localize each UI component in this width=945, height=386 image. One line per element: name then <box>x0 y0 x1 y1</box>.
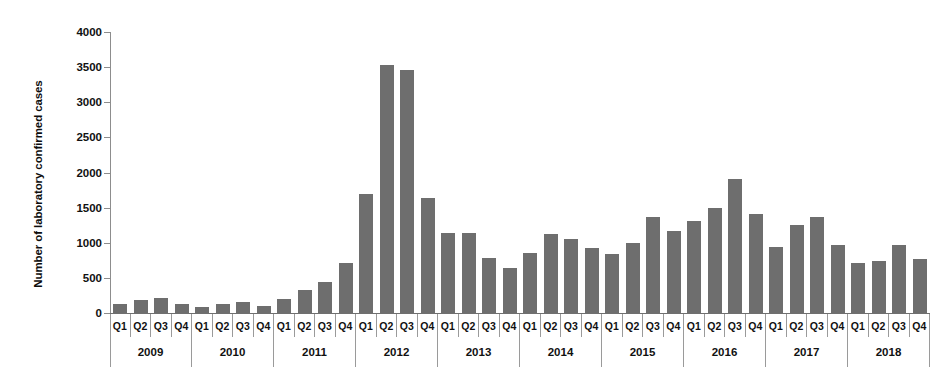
x-tick-quarter: Q1 <box>766 314 787 337</box>
y-tick-label: 4000 <box>56 26 102 38</box>
x-tick-year: 2012 <box>356 337 438 367</box>
x-axis-year-labels: 2009201020112012201320142015201620172018 <box>110 337 930 367</box>
bar <box>503 268 517 313</box>
bar <box>113 304 127 313</box>
bar <box>687 221 701 313</box>
bar <box>277 299 291 313</box>
x-tick-quarter: Q4 <box>746 314 767 337</box>
bar <box>544 234 558 313</box>
x-tick-quarter: Q2 <box>377 314 398 337</box>
x-tick-quarter: Q4 <box>254 314 275 337</box>
x-tick-year: 2016 <box>684 337 766 367</box>
x-tick-quarter: Q2 <box>131 314 152 337</box>
x-tick-quarter: Q3 <box>479 314 500 337</box>
x-tick-year: 2009 <box>110 337 192 367</box>
x-tick-quarter: Q3 <box>315 314 336 337</box>
x-tick-quarter: Q2 <box>787 314 808 337</box>
bar <box>564 239 578 313</box>
bar <box>257 306 271 313</box>
bar-series <box>110 32 930 313</box>
bar <box>441 233 455 313</box>
y-tick-label: 3000 <box>56 96 102 108</box>
x-tick-quarter: Q4 <box>582 314 603 337</box>
x-tick-quarter: Q3 <box>643 314 664 337</box>
x-tick-quarter: Q1 <box>356 314 377 337</box>
bar <box>913 259 927 313</box>
x-axis-quarter-labels: Q1Q2Q3Q4Q1Q2Q3Q4Q1Q2Q3Q4Q1Q2Q3Q4Q1Q2Q3Q4… <box>110 314 930 337</box>
bar <box>298 290 312 313</box>
y-tick-label: 2500 <box>56 131 102 143</box>
x-tick-year: 2013 <box>438 337 520 367</box>
x-tick-year: 2015 <box>602 337 684 367</box>
x-tick-quarter: Q3 <box>725 314 746 337</box>
x-tick-year: 2010 <box>192 337 274 367</box>
bar <box>462 233 476 313</box>
x-tick-quarter: Q1 <box>438 314 459 337</box>
x-tick-year: 2018 <box>848 337 930 367</box>
x-tick-quarter: Q1 <box>848 314 869 337</box>
bar <box>790 225 804 313</box>
bar <box>400 70 414 313</box>
bar-chart: Number of laboratory confirmed cases 400… <box>0 0 945 386</box>
bar <box>892 245 906 313</box>
y-tick-label: 1500 <box>56 202 102 214</box>
x-tick-quarter: Q2 <box>623 314 644 337</box>
x-tick-quarter: Q2 <box>869 314 890 337</box>
bar <box>708 208 722 313</box>
x-tick-quarter: Q1 <box>192 314 213 337</box>
x-tick-quarter: Q1 <box>684 314 705 337</box>
bar <box>667 231 681 313</box>
bar <box>646 217 660 313</box>
x-tick-quarter: Q2 <box>705 314 726 337</box>
bar <box>175 304 189 313</box>
x-tick-quarter: Q1 <box>110 314 131 337</box>
bar <box>810 217 824 313</box>
x-tick-quarter: Q2 <box>295 314 316 337</box>
x-tick-quarter: Q3 <box>561 314 582 337</box>
bar <box>216 304 230 313</box>
x-tick-quarter: Q2 <box>213 314 234 337</box>
x-tick-quarter: Q4 <box>828 314 849 337</box>
bar <box>728 179 742 313</box>
bar <box>134 300 148 313</box>
y-tick-label: 500 <box>56 272 102 284</box>
x-tick-quarter: Q4 <box>336 314 357 337</box>
x-tick-quarter: Q4 <box>500 314 521 337</box>
x-tick-quarter: Q3 <box>807 314 828 337</box>
bar <box>605 254 619 313</box>
bar <box>339 263 353 313</box>
bar <box>421 198 435 313</box>
bar <box>236 302 250 313</box>
bar <box>482 258 496 313</box>
bar <box>195 307 209 313</box>
x-tick-quarter: Q3 <box>233 314 254 337</box>
bar <box>831 245 845 313</box>
x-tick-quarter: Q1 <box>602 314 623 337</box>
x-tick-year: 2014 <box>520 337 602 367</box>
x-tick-quarter: Q1 <box>520 314 541 337</box>
bar <box>851 263 865 313</box>
x-tick-year: 2017 <box>766 337 848 367</box>
x-tick-quarter: Q1 <box>274 314 295 337</box>
bar <box>154 298 168 313</box>
bar <box>523 253 537 313</box>
bar <box>872 261 886 313</box>
y-tick-label: 0 <box>56 307 102 319</box>
x-tick-quarter: Q4 <box>664 314 685 337</box>
x-tick-quarter: Q2 <box>459 314 480 337</box>
y-axis-title: Number of laboratory confirmed cases <box>32 54 44 314</box>
bar <box>318 282 332 313</box>
x-tick-quarter: Q2 <box>541 314 562 337</box>
x-tick-quarter: Q4 <box>172 314 193 337</box>
x-tick-quarter: Q3 <box>889 314 910 337</box>
y-tick-label: 2000 <box>56 167 102 179</box>
bar <box>359 194 373 313</box>
bar <box>749 214 763 313</box>
x-tick-quarter: Q3 <box>151 314 172 337</box>
y-tick-label: 3500 <box>56 61 102 73</box>
bar <box>585 248 599 313</box>
bar <box>380 65 394 313</box>
x-tick-quarter: Q3 <box>397 314 418 337</box>
bar <box>769 247 783 313</box>
x-tick-year: 2011 <box>274 337 356 367</box>
